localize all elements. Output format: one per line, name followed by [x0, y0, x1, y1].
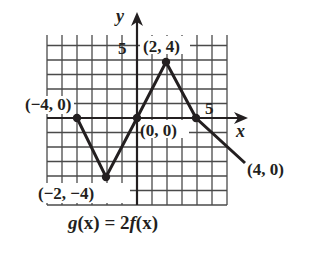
label-m4-0: (−4, 0)	[25, 95, 72, 114]
g-of-x-line	[77, 62, 245, 177]
x-tick-5: 5	[205, 99, 214, 118]
label-4-0: (4, 0)	[247, 160, 284, 179]
x-axis-label: x	[235, 121, 245, 141]
point-m4-0	[73, 114, 81, 122]
y-tick-5: 5	[118, 39, 127, 58]
point-4-0	[192, 114, 200, 122]
point-m2-m4	[102, 173, 110, 181]
label-2-4: (2, 4)	[143, 37, 180, 56]
graph: y x 5 5 (−4, 0) (2, 4) (0, 0) (4, 0) (−2…	[0, 0, 319, 257]
label-0-0: (0, 0)	[140, 121, 177, 140]
y-axis-label: y	[114, 6, 125, 26]
formula-mid: (x) = 2	[78, 212, 130, 233]
function-caption: g(x) = 2f(x)	[68, 212, 158, 234]
formula-end: (x)	[136, 212, 158, 233]
formula-g: g	[68, 212, 78, 233]
label-m2-m4: (−2, −4)	[38, 184, 94, 203]
point-2-4	[162, 58, 170, 66]
